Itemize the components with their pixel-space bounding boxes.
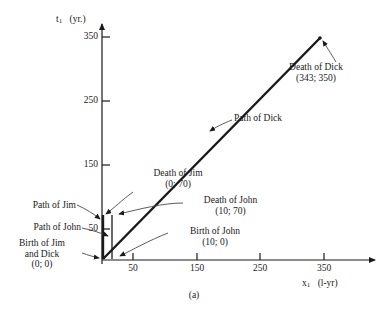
- x-tick-50: 50: [113, 263, 153, 273]
- x-tick-350: 350: [304, 263, 344, 273]
- x-tick-250: 250: [240, 263, 280, 273]
- y-tick-150: 150: [58, 159, 98, 169]
- x-axis: [102, 253, 375, 260]
- annotation-birth-of-john: Birth of John (10; 0): [170, 226, 260, 247]
- annotation-path-of-john: Path of John: [0, 222, 81, 233]
- annotation-birth-of-jim-and-dick: Birth of Jim and Dick (0; 0): [1, 238, 83, 270]
- annotation-death-of-dick: Death of Dick (343; 350): [276, 62, 356, 83]
- annotation-death-of-jim: Death of Jim (0; 70): [133, 168, 223, 189]
- y-axis-label: t1 (yr.): [56, 14, 86, 25]
- y-tick-350: 350: [58, 31, 98, 41]
- x-axis-label: x1 (l-yr): [302, 278, 338, 289]
- figure-caption: (a): [189, 290, 200, 300]
- x-tick-150: 150: [177, 263, 217, 273]
- y-tick-250: 250: [58, 95, 98, 105]
- annotation-path-of-dick: Path of Dick: [234, 113, 282, 124]
- spacetime-diagram-figure: t1 (yr.) 350 250 150 50 50 150 250 350 x…: [0, 0, 388, 318]
- annotation-path-of-jim: Path of Jim: [0, 200, 76, 211]
- annotation-death-of-john: Death of John (10; 70): [183, 195, 278, 216]
